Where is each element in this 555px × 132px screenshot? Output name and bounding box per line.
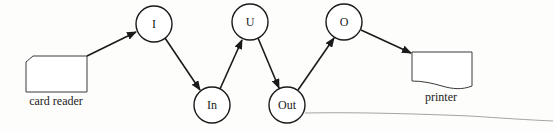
- edge-O-to-printer: [361, 30, 411, 53]
- edge-card-reader-to-I: [87, 32, 136, 56]
- card-reader-shape: [26, 56, 87, 92]
- node-In-label: In: [207, 98, 217, 112]
- node-O: O: [326, 4, 362, 40]
- pencil-stroke: [305, 113, 553, 121]
- node-U: U: [232, 4, 268, 40]
- edge-U-to-Out: [258, 38, 279, 88]
- printer-device: printer: [412, 52, 472, 104]
- node-In: In: [194, 87, 230, 123]
- node-I: I: [136, 6, 172, 42]
- edge-I-to-In: [165, 38, 200, 90]
- node-U-label: U: [246, 15, 255, 29]
- flow-diagram: card reader printer I In U Out O: [0, 0, 555, 132]
- card-reader-label: card reader: [29, 94, 83, 108]
- node-Out: Out: [269, 87, 305, 123]
- edge-Out-to-O: [298, 38, 334, 90]
- printer-shape: [412, 52, 472, 89]
- node-Out-label: Out: [278, 98, 297, 112]
- printer-label: printer: [425, 90, 457, 104]
- node-I-label: I: [152, 17, 156, 31]
- node-O-label: O: [340, 15, 349, 29]
- card-reader-device: card reader: [26, 56, 87, 108]
- edge-In-to-U: [220, 40, 242, 89]
